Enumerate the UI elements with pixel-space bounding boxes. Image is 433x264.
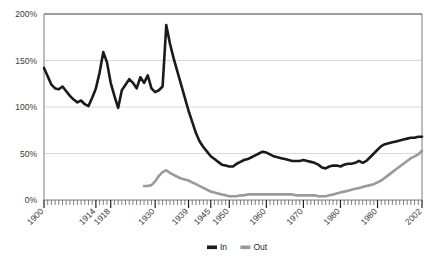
chart-canvas: 0%50%100%150%200% 1900191419181930193919… [0, 0, 433, 264]
y-axis-tick-label: 100% [15, 102, 37, 112]
legend-swatch [240, 246, 250, 250]
x-axis-ticks-group [44, 200, 422, 208]
legend-item-out[interactable]: Out [240, 242, 267, 252]
series-group [44, 25, 422, 196]
x-axis-tick-label: 1970 [284, 206, 305, 227]
legend-swatch [207, 246, 217, 250]
x-axis-tick-label: 1945 [192, 206, 213, 227]
x-axis-tick-label: 1900 [25, 206, 46, 227]
x-axis-tick-label: 1980 [321, 206, 342, 227]
line-chart: 0%50%100%150%200% 1900191419181930193919… [0, 0, 433, 264]
x-axis-tick-label: 1918 [92, 206, 113, 227]
y-axis-tick-label: 50% [20, 149, 37, 159]
y-axis-labels-group: 0%50%100%150%200% [15, 9, 37, 205]
legend-label: In [220, 242, 227, 252]
x-axis-tick-label: 1939 [169, 206, 190, 227]
x-axis-labels-group: 1900191419181930193919451950196019701980… [25, 206, 424, 227]
x-axis-tick-label: 2002 [403, 206, 424, 227]
chart-legend: InOut [207, 242, 268, 252]
y-axis-tick-label: 0% [25, 195, 38, 205]
y-axis-tick-label: 150% [15, 56, 37, 66]
y-axis-tick-label: 200% [15, 9, 37, 19]
x-axis-tick-label: 1960 [247, 206, 268, 227]
gridlines-group [44, 14, 422, 154]
x-axis-tick-label: 1930 [136, 206, 157, 227]
legend-label: Out [253, 242, 267, 252]
series-line-in [44, 25, 422, 168]
x-axis-tick-label: 1980 [358, 206, 379, 227]
x-axis-tick-label: 1950 [210, 206, 231, 227]
legend-item-in[interactable]: In [207, 242, 227, 252]
